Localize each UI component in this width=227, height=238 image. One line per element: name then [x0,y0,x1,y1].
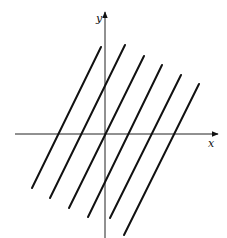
line-family [32,45,199,235]
x-axis-label: x [208,137,215,150]
parallel-line-6 [124,84,199,235]
parallel-line-1 [32,47,101,188]
y-axis-label: y [95,12,103,25]
parallel-line-5 [110,75,181,218]
parallel-line-4 [88,65,162,217]
parallel-lines-diagram: y x [0,0,227,238]
parallel-line-3 [69,56,144,208]
parallel-line-2 [50,45,125,198]
